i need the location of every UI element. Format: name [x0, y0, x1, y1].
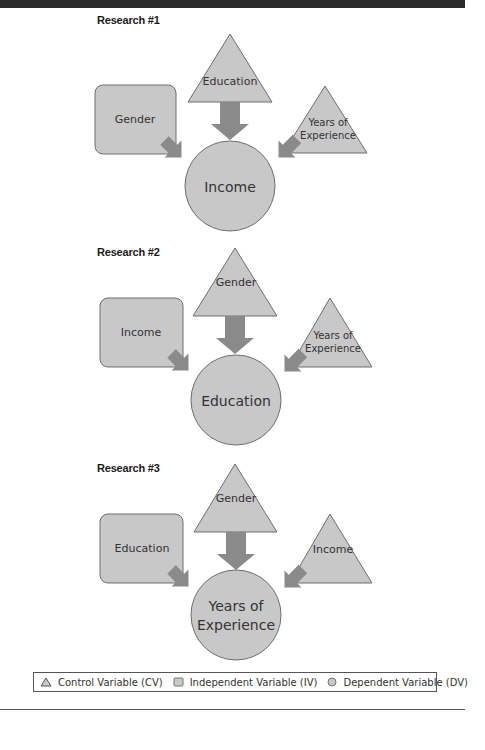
legend-label: Dependent Variable (DV) [343, 677, 467, 688]
legend-item-control: Control Variable (CV) [40, 677, 163, 688]
control-right-label-line2: Experience [305, 343, 361, 354]
independent-variable-label: Income [121, 326, 162, 339]
diagram-canvas: Gender Education Years of Experience Inc… [0, 0, 485, 750]
legend-item-dependent: Dependent Variable (DV) [327, 677, 467, 688]
control-top-label: Education [203, 75, 258, 88]
arrow-down-icon [211, 102, 249, 140]
square-icon [173, 677, 184, 687]
control-right-label: Income [313, 543, 354, 556]
arrow-down-icon [217, 532, 255, 570]
divider-line [0, 709, 465, 710]
triangle-icon [40, 677, 52, 687]
panel-3: Education Gender Income Years of Experie… [100, 464, 372, 660]
panel-1: Gender Education Years of Experience Inc… [95, 34, 367, 231]
legend: Control Variable (CV) Independent Variab… [33, 672, 437, 692]
control-top-label: Gender [216, 492, 257, 505]
control-variable-top-triangle [188, 34, 272, 102]
independent-variable-label: Gender [115, 113, 156, 126]
dependent-label-line1: Years of [208, 598, 265, 614]
independent-variable-label: Education [115, 542, 170, 555]
control-right-label-line1: Years of [307, 117, 348, 128]
dependent-label: Education [201, 393, 271, 409]
dependent-variable-circle [191, 570, 281, 660]
control-right-label-line1: Years of [312, 330, 353, 341]
legend-label: Control Variable (CV) [58, 677, 163, 688]
legend-label: Independent Variable (IV) [190, 677, 318, 688]
circle-icon [327, 677, 337, 687]
dependent-label: Income [204, 179, 256, 195]
legend-item-independent: Independent Variable (IV) [173, 677, 318, 688]
arrow-down-icon [216, 316, 254, 354]
dependent-label-line2: Experience [197, 617, 275, 633]
control-top-label: Gender [216, 276, 257, 289]
panel-2: Income Gender Years of Experience Educat… [100, 248, 372, 445]
control-right-label-line2: Experience [300, 130, 356, 141]
